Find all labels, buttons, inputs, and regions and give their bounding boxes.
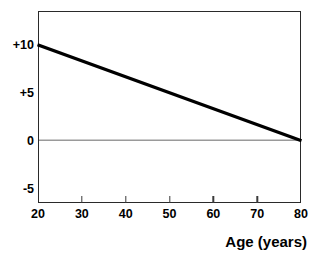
x-tick-label: 30: [62, 208, 102, 221]
y-tick-label: 0: [0, 134, 34, 147]
y-tick-label: +10: [0, 38, 34, 51]
chart-figure: +10+50-5 20304050607080 Age (years): [0, 0, 319, 261]
x-tick-label: 20: [18, 208, 58, 221]
x-tick-label: 40: [106, 208, 146, 221]
x-tick-label: 70: [237, 208, 277, 221]
plot-canvas: [39, 12, 300, 202]
x-tick-mark: [213, 196, 214, 203]
trend-line: [39, 45, 300, 140]
y-tick-label: +5: [0, 86, 34, 99]
chart-title-truncated: [62, 0, 212, 3]
x-tick-mark: [125, 196, 126, 203]
x-tick-label: 60: [193, 208, 233, 221]
x-tick-mark: [169, 196, 170, 203]
x-axis-title: Age (years): [225, 234, 307, 249]
x-tick-mark: [256, 196, 257, 203]
plot-frame: [38, 11, 301, 203]
plot-area: [39, 12, 300, 202]
x-tick-label: 80: [281, 208, 319, 221]
x-tick-mark: [81, 196, 82, 203]
y-tick-label: -5: [0, 182, 34, 195]
x-tick-label: 50: [150, 208, 190, 221]
